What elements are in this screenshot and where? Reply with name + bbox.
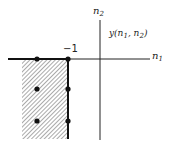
diagram-canvas <box>0 0 170 149</box>
tick-label-minus-one: −1 <box>63 44 78 54</box>
n1-axis-label: n1 <box>152 51 163 63</box>
n2-axis-label: n2 <box>93 6 104 18</box>
function-label: y(n1, n2) <box>109 29 147 40</box>
shaded-region <box>22 59 68 139</box>
